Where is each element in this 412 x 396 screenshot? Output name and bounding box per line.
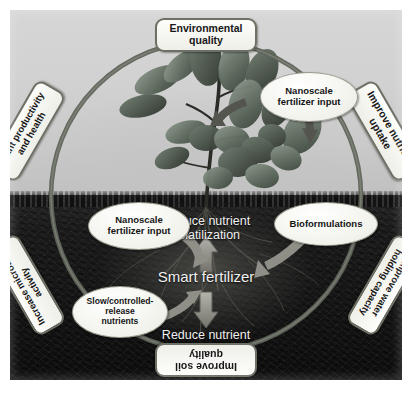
oval-line2: fertilizer input — [108, 226, 171, 237]
oval-slow-controlled-release-nutrients[interactable]: Slow/controlled- release nutrients — [72, 286, 168, 338]
oval-nanoscale-fertilizer-input-soil[interactable]: Nanoscale fertilizer input — [88, 202, 190, 250]
oval-line2: fertilizer input — [278, 97, 341, 108]
ring-tag-environmental-quality[interactable]: Environmental quality — [155, 18, 257, 52]
tag-line1: Improve soil — [175, 360, 237, 372]
oval-line1: Bioformulations — [290, 219, 363, 230]
oval-line3: nutrients — [87, 317, 154, 327]
arrow-leaf-uptake-left — [210, 102, 246, 126]
tag-line2: quality — [170, 35, 243, 47]
center-title-smart-fertilizer: Smart fertilizer — [96, 268, 316, 285]
flow-arrows — [10, 10, 402, 380]
oval-nanoscale-fertilizer-input-top[interactable]: Nanoscale fertilizer input — [260, 72, 358, 122]
smart-fertilizer-text: Smart fertilizer — [158, 268, 255, 285]
ring-tag-improve-soil-quality[interactable]: Improve soil quality — [155, 343, 257, 377]
figure-canvas: Reduce nutrient volatilization Smart fer… — [10, 10, 402, 380]
tag-line2: quality — [175, 348, 237, 360]
oval-bioformulations[interactable]: Bioformulations — [274, 202, 378, 246]
